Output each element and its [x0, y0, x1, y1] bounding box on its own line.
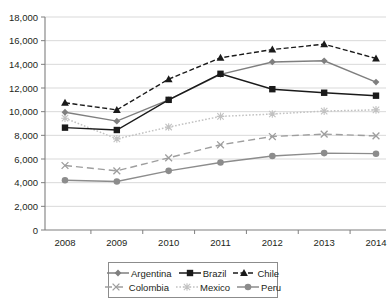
data-point-marker	[372, 106, 380, 114]
y-axis-tick-label: 4,000	[14, 177, 38, 188]
y-axis-tick-label: 10,000	[9, 106, 38, 117]
series-brazil	[62, 71, 379, 134]
legend-label: Chile	[257, 268, 279, 279]
legend-label: Brazil	[203, 268, 227, 279]
legend-key-argentina	[107, 267, 129, 279]
data-point-marker	[373, 79, 380, 86]
data-point-marker	[217, 54, 225, 61]
legend-label: Mexico	[200, 282, 230, 293]
data-point-marker	[320, 40, 328, 47]
x-axis-tick-label: 2009	[106, 237, 127, 248]
data-point-marker	[183, 283, 191, 291]
y-axis-tick-label: 14,000	[9, 59, 38, 70]
data-point-marker	[165, 97, 171, 103]
y-axis-tick-label: 6,000	[14, 154, 38, 165]
data-point-marker	[321, 150, 328, 157]
data-point-marker	[268, 46, 276, 53]
data-point-marker	[269, 110, 277, 118]
legend-item-mexico[interactable]: Mexico	[176, 281, 230, 293]
y-axis-tick-label: 0	[33, 225, 38, 236]
legend-label: Argentina	[131, 268, 172, 279]
data-point-marker	[165, 123, 173, 131]
legend-item-argentina[interactable]: Argentina	[107, 267, 172, 279]
data-point-marker	[245, 284, 252, 291]
legend-key-brazil	[179, 267, 201, 279]
line-chart-plot: 02,0004,0006,0008,00010,00012,00014,0001…	[0, 0, 391, 262]
data-point-marker	[373, 150, 380, 157]
y-axis-tick-label: 2,000	[14, 201, 38, 212]
x-axis-tick-label: 2010	[158, 237, 179, 248]
y-axis-tick-label: 8,000	[14, 130, 38, 141]
x-axis-tick-label: 2008	[54, 237, 75, 248]
data-point-marker	[321, 57, 328, 64]
legend-label: Colombia	[129, 282, 169, 293]
data-point-marker	[165, 168, 172, 175]
data-point-marker	[217, 113, 225, 121]
legend-row-1: ArgentinaBrazilChile	[113, 266, 273, 280]
chart-legend: ArgentinaBrazilChile ColombiaMexicoPeru	[108, 262, 278, 298]
series-line	[65, 153, 376, 181]
legend-key-peru	[237, 281, 259, 293]
legend-label: Peru	[261, 282, 281, 293]
legend-item-chile[interactable]: Chile	[233, 267, 279, 279]
legend-item-colombia[interactable]: Colombia	[105, 281, 169, 293]
data-point-marker	[62, 109, 69, 116]
series-peru	[62, 150, 380, 185]
legend-key-colombia	[105, 281, 127, 293]
legend-key-chile	[233, 267, 255, 279]
data-point-marker	[113, 118, 120, 125]
legend-row-2: ColombiaMexicoPeru	[113, 280, 273, 294]
data-point-marker	[114, 178, 121, 185]
data-point-marker	[217, 71, 223, 77]
x-axis-tick-label: 2013	[314, 237, 335, 248]
data-point-marker	[373, 92, 379, 98]
data-point-marker	[62, 177, 69, 184]
chart-container: 02,0004,0006,0008,00010,00012,00014,0001…	[0, 0, 391, 303]
x-axis-tick-label: 2012	[262, 237, 283, 248]
data-point-marker	[62, 124, 68, 130]
data-point-marker	[321, 90, 327, 96]
legend-key-mexico	[176, 281, 198, 293]
legend-item-brazil[interactable]: Brazil	[179, 267, 227, 279]
data-point-marker	[61, 99, 69, 106]
y-axis-tick-label: 16,000	[9, 35, 38, 46]
data-point-marker	[269, 86, 275, 92]
series-line	[65, 74, 376, 130]
data-point-marker	[186, 270, 192, 276]
x-axis-tick-label: 2011	[210, 237, 230, 248]
y-axis-tick-label: 18,000	[9, 12, 38, 23]
data-point-marker	[217, 159, 224, 166]
data-point-marker	[113, 135, 121, 143]
x-axis-tick-label: 2014	[365, 237, 386, 248]
data-point-marker	[320, 107, 328, 115]
data-point-marker	[115, 270, 122, 277]
data-point-marker	[114, 127, 120, 133]
y-axis-tick-label: 12,000	[9, 83, 38, 94]
data-point-marker	[269, 153, 276, 160]
legend-item-peru[interactable]: Peru	[237, 281, 281, 293]
